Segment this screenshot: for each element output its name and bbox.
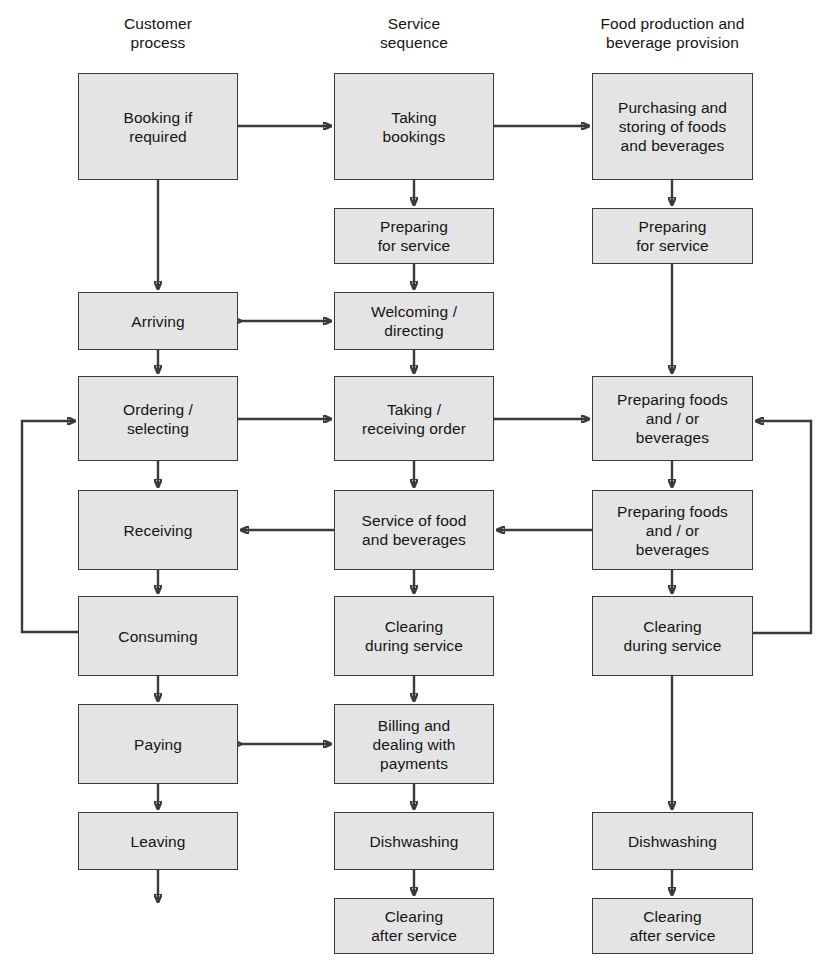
node-service-of-food-and-beverages[interactable]: Service of food and beverages bbox=[334, 490, 494, 570]
node-label: Billing and dealing with payments bbox=[335, 716, 493, 773]
node-preparing-for-service-service[interactable]: Preparing for service bbox=[334, 208, 494, 264]
node-clearing-during-service-production[interactable]: Clearing during service bbox=[592, 596, 753, 676]
node-taking-bookings[interactable]: Taking bookings bbox=[334, 73, 494, 180]
node-preparing-foods-and-or-beverages-1[interactable]: Preparing foods and / or beverages bbox=[592, 376, 753, 461]
node-consuming[interactable]: Consuming bbox=[78, 596, 238, 676]
node-label: Paying bbox=[79, 735, 237, 754]
node-label: Preparing foods and / or beverages bbox=[593, 390, 752, 447]
node-dishwashing-production[interactable]: Dishwashing bbox=[592, 812, 753, 870]
node-label: Welcoming / directing bbox=[335, 302, 493, 340]
edge-clearing-feedback-to-preparing-foods bbox=[753, 421, 811, 633]
node-receiving[interactable]: Receiving bbox=[78, 490, 238, 570]
node-label: Taking bookings bbox=[335, 108, 493, 146]
node-label: Arriving bbox=[79, 312, 237, 331]
node-label: Leaving bbox=[79, 832, 237, 851]
node-label: Preparing foods and / or beverages bbox=[593, 502, 752, 559]
column-header-service-sequence: Service sequence bbox=[334, 14, 494, 52]
edge-consuming-feedback-to-ordering bbox=[22, 421, 78, 632]
node-welcoming-directing[interactable]: Welcoming / directing bbox=[334, 292, 494, 350]
node-label: Preparing for service bbox=[593, 217, 752, 255]
node-arriving[interactable]: Arriving bbox=[78, 292, 238, 350]
node-paying[interactable]: Paying bbox=[78, 704, 238, 784]
node-billing-and-dealing-with-payments[interactable]: Billing and dealing with payments bbox=[334, 704, 494, 784]
node-purchasing-and-storing-of-foods-and-beverages[interactable]: Purchasing and storing of foods and beve… bbox=[592, 73, 753, 180]
node-label: Dishwashing bbox=[593, 832, 752, 851]
node-label: Clearing after service bbox=[335, 907, 493, 945]
node-ordering-selecting[interactable]: Ordering / selecting bbox=[78, 376, 238, 461]
node-label: Purchasing and storing of foods and beve… bbox=[593, 98, 752, 155]
node-label: Service of food and beverages bbox=[335, 511, 493, 549]
node-preparing-foods-and-or-beverages-2[interactable]: Preparing foods and / or beverages bbox=[592, 490, 753, 570]
node-clearing-after-service-service[interactable]: Clearing after service bbox=[334, 898, 494, 954]
node-label: Receiving bbox=[79, 521, 237, 540]
node-label: Ordering / selecting bbox=[79, 400, 237, 438]
node-booking-if-required[interactable]: Booking if required bbox=[78, 73, 238, 180]
node-label: Clearing during service bbox=[335, 617, 493, 655]
column-header-customer-process: Customer process bbox=[78, 14, 238, 52]
node-preparing-for-service-production[interactable]: Preparing for service bbox=[592, 208, 753, 264]
node-label: Dishwashing bbox=[335, 832, 493, 851]
node-label: Clearing after service bbox=[593, 907, 752, 945]
node-label: Taking / receiving order bbox=[335, 400, 493, 438]
node-taking-receiving-order[interactable]: Taking / receiving order bbox=[334, 376, 494, 461]
node-label: Booking if required bbox=[79, 108, 237, 146]
node-clearing-during-service-service[interactable]: Clearing during service bbox=[334, 596, 494, 676]
column-header-food-production: Food production and beverage provision bbox=[582, 14, 763, 52]
node-label: Preparing for service bbox=[335, 217, 493, 255]
node-label: Consuming bbox=[79, 627, 237, 646]
node-leaving[interactable]: Leaving bbox=[78, 812, 238, 870]
node-dishwashing-service[interactable]: Dishwashing bbox=[334, 812, 494, 870]
node-clearing-after-service-production[interactable]: Clearing after service bbox=[592, 898, 753, 954]
node-label: Clearing during service bbox=[593, 617, 752, 655]
flowchart-diagram: Customer process Service sequence Food p… bbox=[0, 0, 823, 960]
